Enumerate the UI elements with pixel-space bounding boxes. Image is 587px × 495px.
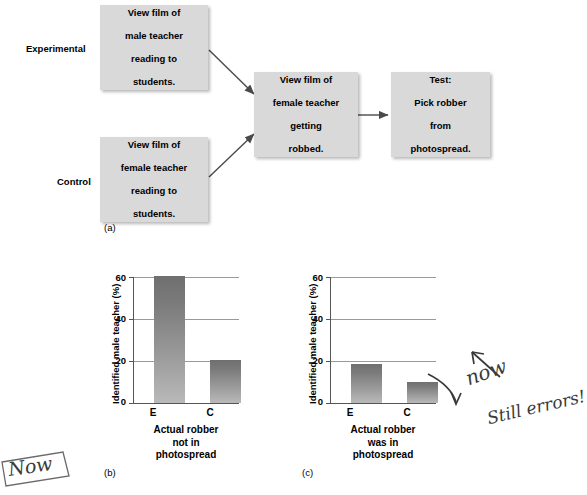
hand-arrow-curve-head	[451, 392, 461, 404]
hand-arrow-curve-line	[428, 374, 456, 402]
hand-arrow-up-left-line	[472, 352, 500, 377]
hand-box-around-now	[2, 452, 69, 486]
